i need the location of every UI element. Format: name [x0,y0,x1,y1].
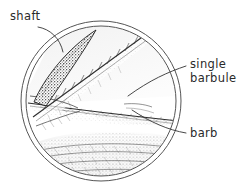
label-single-barbule-line1: single [190,57,226,71]
lower-vane [16,131,190,186]
feather-illustration: shaft single barbule barb [0,0,252,195]
figure-root: shaft single barbule barb [0,0,252,195]
label-single-barbule-line2: barbule [190,71,236,85]
label-shaft: shaft [10,9,41,23]
label-barb: barb [190,126,218,140]
single-barbule-filament [124,104,154,113]
